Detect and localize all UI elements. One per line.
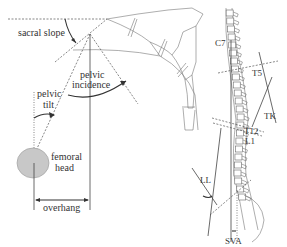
- sacrum-pelvis-panel: sacral slope pelvic incidence pelvic til…: [8, 8, 203, 213]
- pelvic-tilt-label-line2: tilt: [43, 99, 54, 110]
- t5-label: T5: [252, 68, 262, 78]
- overhang-label: overhang: [43, 202, 80, 213]
- spinous-process: [234, 28, 239, 33]
- vertebra: [235, 146, 242, 152]
- l1-label: L1: [245, 136, 255, 146]
- spinous-process: [236, 52, 241, 57]
- spinous-process: [239, 76, 244, 81]
- spinous-process: [242, 156, 247, 161]
- pelvic-incidence-arrowhead: [120, 81, 126, 86]
- vertebra: [227, 26, 234, 32]
- vertebra: [237, 114, 244, 120]
- tk-label: TK: [264, 111, 276, 121]
- vertebra: [239, 194, 246, 200]
- femoral-head-label-line2: head: [55, 162, 74, 173]
- vertebra: [229, 42, 236, 48]
- vertebra: [232, 74, 239, 80]
- spinous-process: [240, 84, 245, 89]
- ll-label: LL: [200, 175, 211, 185]
- spinous-process: [234, 20, 239, 25]
- femoral-head: [17, 148, 49, 178]
- sacrum-contour: [244, 195, 264, 242]
- spine-panel: C7 T5 TK T12 L1 LL SVA: [192, 8, 278, 246]
- vertebra: [235, 178, 242, 184]
- vertebra: [228, 34, 235, 40]
- vertebra: [234, 162, 241, 168]
- vertebra: [235, 154, 242, 160]
- sacral-slope-label: sacral slope: [18, 27, 65, 38]
- vertebra: [236, 138, 243, 144]
- vertebra: [236, 106, 243, 112]
- pelvic-incidence-label-line2: incidence: [72, 79, 111, 90]
- vertebra: [227, 18, 234, 24]
- vertebra: [235, 98, 242, 104]
- vertebra: [229, 50, 236, 56]
- spinous-process: [244, 188, 249, 193]
- overhang-right-arrowhead: [84, 198, 89, 202]
- overhang-left-arrowhead: [35, 198, 40, 202]
- t5-endplate-line: [218, 61, 278, 73]
- spinous-process: [235, 36, 240, 41]
- pelvic-tilt-arrowhead: [49, 112, 55, 118]
- vertebra: [237, 122, 244, 128]
- spinous-process: [242, 148, 247, 153]
- t12-label: T12: [244, 126, 259, 136]
- sacral-slope-arrowhead: [71, 38, 76, 43]
- spinopelvic-diagram: sacral slope pelvic incidence pelvic til…: [0, 0, 287, 247]
- vertebra: [231, 66, 238, 72]
- pelvic-tilt-label-line1: pelvic: [37, 88, 62, 99]
- ll-perpendicular-s1: [192, 168, 217, 205]
- vertebra: [230, 58, 237, 64]
- vertebrae-group: [226, 10, 251, 201]
- vertebra: [236, 130, 243, 136]
- sva-label: SVA: [225, 236, 242, 246]
- sacral-endplate-line: [55, 19, 107, 62]
- vertebra: [234, 90, 241, 96]
- vertebra: [226, 10, 233, 16]
- vertebra: [233, 82, 240, 88]
- spinous-process: [244, 116, 249, 121]
- spinous-process: [241, 172, 246, 177]
- spinous-process: [233, 12, 238, 17]
- c7-label: C7: [215, 38, 226, 48]
- vertebra: [234, 170, 241, 176]
- femoral-head-label-line1: femoral: [51, 151, 82, 162]
